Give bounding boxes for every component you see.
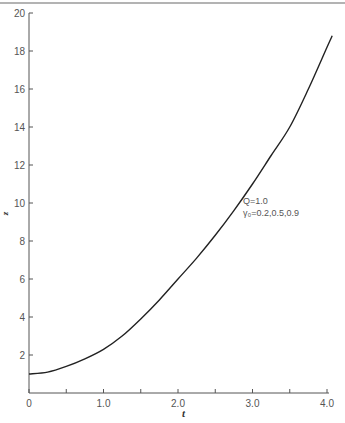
- y-tick-label: 10: [14, 198, 26, 209]
- x-tick-label: 3.0: [246, 398, 260, 409]
- data-curve: [29, 36, 332, 374]
- x-axis-label: t: [182, 407, 186, 419]
- y-tick-label: 16: [14, 84, 26, 95]
- y-tick-label: 18: [14, 46, 26, 57]
- line-chart: 01.02.03.04.02468101214161820 t z Q=1.0 …: [0, 0, 345, 423]
- annotation-gamma: γ₀=0.2,0.5,0.9: [243, 208, 299, 218]
- x-tick-label: 4.0: [320, 398, 334, 409]
- y-tick-label: 20: [14, 8, 26, 19]
- y-tick-label: 8: [19, 236, 25, 247]
- y-tick-label: 2: [19, 350, 25, 361]
- y-tick-label: 12: [14, 160, 26, 171]
- x-tick-label: 1.0: [97, 398, 111, 409]
- x-tick-label: 0: [26, 398, 32, 409]
- y-axis-label: z: [2, 211, 12, 216]
- y-tick-label: 6: [19, 274, 25, 285]
- y-tick-label: 4: [19, 312, 25, 323]
- y-tick-label: 14: [14, 122, 26, 133]
- annotation-q: Q=1.0: [243, 196, 268, 206]
- axes: [29, 13, 329, 393]
